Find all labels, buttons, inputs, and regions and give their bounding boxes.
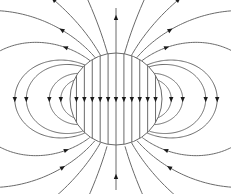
interior-arrow-down-icon: [114, 97, 118, 102]
interior-arrow-down-icon: [145, 97, 149, 102]
side-loop-arrow-down-icon: [24, 97, 28, 102]
top-arrow-up-icon: [164, 46, 170, 50]
side-loop-arrow-down-icon: [181, 97, 185, 102]
side-loop-arrow-down-icon: [204, 97, 208, 102]
side-loop-arrow-down-icon: [59, 97, 63, 102]
interior-arrow-down-icon: [130, 97, 134, 102]
open-field-line: [0, 131, 90, 156]
side-loop-arrow-down-icon: [13, 97, 17, 102]
side-loop-arrow-down-icon: [215, 97, 219, 102]
axis-bottom-arrow-up-icon: [114, 174, 118, 179]
open-field-line: [137, 10, 231, 57]
open-field-line: [0, 10, 95, 57]
interior-arrow-down-icon: [82, 97, 86, 102]
interior-arrow-down-icon: [153, 97, 157, 102]
axis-top-arrow-up-icon: [114, 15, 118, 20]
interior-arrow-down-icon: [106, 97, 110, 102]
side-loop-arrow-down-icon: [47, 97, 51, 102]
side-loop-line: [149, 64, 206, 133]
side-loop-arrow-down-icon: [169, 97, 173, 102]
interior-arrow-down-icon: [74, 97, 78, 102]
interior-arrow-down-icon: [90, 97, 94, 102]
top-arrow-up-icon: [63, 46, 69, 50]
interior-arrow-down-icon: [138, 97, 142, 102]
field-lines: [0, 0, 231, 194]
field-line-diagram: [0, 0, 231, 194]
open-field-line: [0, 141, 95, 188]
side-loop-line: [26, 64, 83, 133]
interior-arrow-down-icon: [98, 97, 102, 102]
bottom-arrow-up-icon: [63, 149, 69, 153]
interior-arrow-down-icon: [122, 97, 126, 102]
open-field-line: [137, 141, 231, 188]
bottom-arrow-up-icon: [163, 149, 169, 153]
